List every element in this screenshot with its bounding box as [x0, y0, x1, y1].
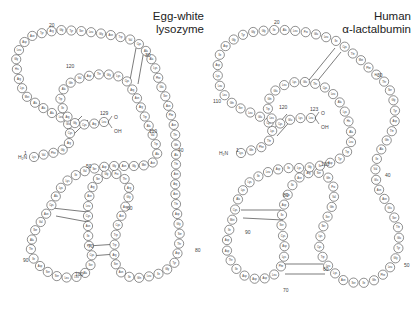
svg-text:Ser: Ser: [388, 88, 392, 92]
svg-text:Tyr: Tyr: [241, 33, 245, 37]
position-number: 129: [100, 110, 108, 116]
svg-text:Leu: Leu: [293, 29, 298, 33]
svg-text:Asn: Asn: [166, 104, 171, 108]
residue: Cys: [340, 42, 349, 51]
residue: Trp: [343, 147, 352, 156]
svg-text:Asp: Asp: [392, 119, 397, 123]
svg-text:Ser: Ser: [88, 263, 92, 267]
svg-text:Lys: Lys: [239, 151, 244, 155]
residue: Arg: [14, 74, 23, 83]
svg-text:Asn: Asn: [44, 212, 49, 216]
svg-text:Gln: Gln: [385, 138, 390, 142]
svg-text:Trp: Trp: [345, 150, 349, 154]
residue: Arg: [171, 180, 180, 189]
svg-text:Trp: Trp: [143, 115, 147, 119]
svg-text:Met: Met: [25, 95, 30, 99]
alpha-lactalbumin-c-terminus-oh: OH: [321, 124, 329, 130]
residue: Leu: [291, 26, 300, 35]
lysozyme-title: Egg-white lysozyme: [153, 10, 204, 36]
svg-text:Trp: Trp: [114, 233, 118, 237]
svg-text:Asp: Asp: [282, 244, 287, 248]
svg-text:Asn: Asn: [341, 278, 346, 282]
residue: Thr: [264, 136, 273, 145]
residue: Trp: [56, 94, 65, 103]
svg-text:Lys: Lys: [20, 86, 25, 90]
residue: Asn: [169, 120, 178, 129]
residue: Gln: [227, 98, 236, 107]
svg-text:Lys: Lys: [297, 166, 302, 170]
residue: Ile: [58, 104, 67, 113]
svg-text:Cys: Cys: [49, 203, 54, 207]
residue: Asn: [171, 170, 180, 179]
svg-text:Ser: Ser: [178, 232, 182, 236]
residue: Ala: [335, 98, 344, 107]
svg-text:Arg: Arg: [65, 115, 70, 119]
svg-text:Asp: Asp: [175, 251, 180, 255]
residue: Asp: [390, 117, 399, 126]
residue: Ile: [71, 171, 80, 180]
svg-text:Cys: Cys: [278, 122, 283, 126]
residue: Ile: [232, 264, 241, 273]
residue: Gly: [389, 96, 398, 105]
residue: Ala: [47, 108, 56, 117]
residue: Arg: [64, 139, 73, 148]
position-number: 80: [195, 247, 201, 253]
svg-text:Asn: Asn: [174, 172, 179, 176]
svg-text:Pro: Pro: [304, 30, 309, 34]
svg-text:Gln: Gln: [372, 278, 377, 282]
residue: Asn: [132, 94, 141, 103]
position-number: 90: [245, 229, 251, 235]
svg-text:Ser: Ser: [163, 94, 167, 98]
residue: Arg: [136, 103, 145, 112]
residue: Met: [228, 215, 237, 224]
residue: Asn: [106, 30, 115, 39]
svg-text:Glu: Glu: [288, 118, 293, 122]
residue: Ala: [346, 127, 355, 136]
residue: His: [344, 117, 353, 126]
residue: Asp: [173, 249, 182, 258]
svg-text:Ser: Ser: [239, 106, 243, 110]
svg-text:Asp: Asp: [22, 40, 27, 44]
svg-text:Pro: Pro: [114, 172, 119, 176]
svg-text:Ala: Ala: [283, 28, 287, 32]
residue: Ala: [153, 149, 162, 158]
position-number: 50: [404, 262, 410, 268]
residue: Ile: [359, 278, 368, 287]
residue: Asp: [213, 61, 222, 70]
c-terminus-bond: [315, 118, 319, 124]
residue: Tyr: [390, 106, 399, 115]
disulfide-bridge: [52, 208, 88, 212]
svg-text:Thr: Thr: [177, 242, 181, 246]
residue: Asp: [260, 274, 269, 283]
svg-text:Asn: Asn: [109, 33, 114, 37]
svg-text:Asp: Asp: [282, 203, 287, 207]
residue: Trp: [263, 104, 272, 113]
svg-text:Thr: Thr: [174, 162, 178, 166]
residue: Asn: [148, 158, 157, 167]
svg-text:Phe: Phe: [279, 264, 284, 268]
svg-text:Ala: Ala: [54, 194, 58, 198]
residue: Thr: [26, 245, 35, 254]
residue: Arg: [125, 183, 134, 192]
svg-text:Ala: Ala: [174, 153, 178, 157]
svg-text:Thr: Thr: [313, 82, 317, 86]
residue: Phe: [257, 143, 266, 152]
svg-text:Gln: Gln: [137, 276, 142, 280]
svg-text:Asn: Asn: [297, 176, 302, 180]
svg-text:Ser: Ser: [317, 171, 321, 175]
svg-text:Leu: Leu: [266, 170, 271, 174]
svg-text:Glu: Glu: [388, 206, 393, 210]
residue: Leu: [87, 28, 96, 37]
svg-text:Cys: Cys: [82, 123, 87, 127]
residue: Leu: [246, 108, 255, 117]
residue: Ser: [93, 174, 102, 183]
residue: Leu: [99, 117, 108, 126]
svg-text:Lys: Lys: [282, 255, 287, 259]
svg-text:Leu: Leu: [331, 92, 336, 96]
residue: Ser: [111, 260, 120, 269]
svg-text:Glu: Glu: [374, 178, 379, 182]
residue: Gly: [305, 163, 314, 172]
residue: Cys: [47, 201, 56, 210]
residue: Cys: [278, 231, 287, 240]
residue: Ala: [39, 104, 48, 113]
